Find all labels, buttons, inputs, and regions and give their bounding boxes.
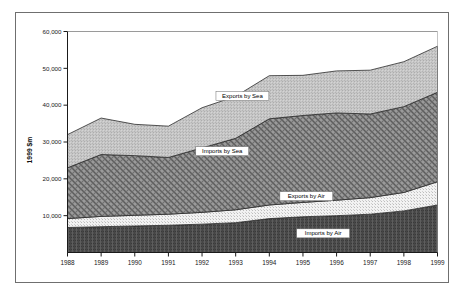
x-tick-label: 1994 — [262, 259, 277, 266]
x-tick-label: 1995 — [296, 259, 311, 266]
series-label-text: Exports by Air — [288, 193, 325, 199]
y-tick-label: 20,000 — [43, 175, 62, 182]
x-tick-label: 1991 — [161, 259, 176, 266]
y-axis-ticks: 60,00050,00040,00030,00020,00010,000 — [43, 28, 68, 219]
series-label: Exports by Sea — [216, 91, 269, 100]
plot-container: 60,00050,00040,00030,00020,00010,000 198… — [0, 0, 463, 301]
series-label: Exports by Air — [280, 192, 333, 201]
x-tick-label: 1990 — [128, 259, 143, 266]
x-tick-label: 1988 — [60, 259, 75, 266]
x-axis-ticks: 1988198919901991199219931994199519961997… — [60, 253, 445, 266]
x-tick-label: 1997 — [363, 259, 378, 266]
x-tick-label: 1998 — [397, 259, 412, 266]
y-axis-title: 1999 $m — [26, 137, 34, 164]
series-label-text: Exports by Sea — [222, 93, 263, 99]
y-tick-label: 50,000 — [43, 65, 62, 72]
x-tick-label: 1993 — [229, 259, 244, 266]
y-axis-title-text: 1999 $m — [26, 137, 34, 164]
chart-figure: 60,00050,00040,00030,00020,00010,000 198… — [0, 0, 463, 301]
y-tick-label: 10,000 — [43, 212, 62, 219]
y-tick-label: 40,000 — [43, 101, 62, 108]
x-tick-label: 1996 — [329, 259, 344, 266]
x-tick-label: 1989 — [94, 259, 109, 266]
y-tick-label: 30,000 — [43, 138, 62, 145]
x-tick-label: 1999 — [430, 259, 445, 266]
x-tick-label: 1992 — [195, 259, 210, 266]
series-label-text: Imports by Sea — [202, 148, 243, 154]
series-label: Imports by Sea — [196, 147, 249, 156]
y-tick-label: 60,000 — [43, 28, 62, 35]
stacked-area-chart: 60,00050,00040,00030,00020,00010,000 198… — [0, 0, 463, 301]
series-label: Imports by Air — [297, 229, 350, 238]
series-label-text: Imports by Air — [305, 230, 342, 236]
